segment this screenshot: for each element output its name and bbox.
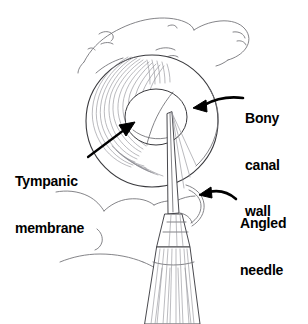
label-tympanic-membrane-line2: membrane: [15, 221, 84, 237]
label-tympanic-membrane: Tympanic membrane: [15, 143, 84, 267]
label-angled-needle-line1: Angled: [240, 216, 286, 232]
tympanic-membrane-ellipse: [125, 89, 187, 145]
label-tympanic-membrane-line1: Tympanic: [15, 174, 84, 190]
label-bony-canal-wall-line1: Bony: [245, 111, 280, 127]
label-bony-canal-wall-line2: canal: [245, 158, 280, 174]
label-angled-needle-line2: needle: [240, 263, 286, 279]
label-angled-needle: Angled needle: [240, 185, 286, 309]
illustration-canvas: Bony canal wall Tympanic membrane Angled…: [0, 0, 308, 324]
